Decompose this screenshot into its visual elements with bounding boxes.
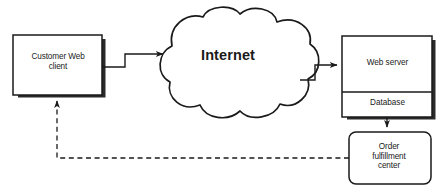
diagram-graphics: [0, 0, 445, 192]
order-fulfillment-center-box: [349, 132, 431, 184]
internet-cloud: [160, 7, 319, 117]
web-server-box: [342, 36, 432, 117]
edge-client-to-internet: [102, 54, 163, 67]
diagram-canvas: Customer Web client Internet Web server …: [0, 0, 445, 192]
customer-web-client-box: [13, 35, 102, 95]
